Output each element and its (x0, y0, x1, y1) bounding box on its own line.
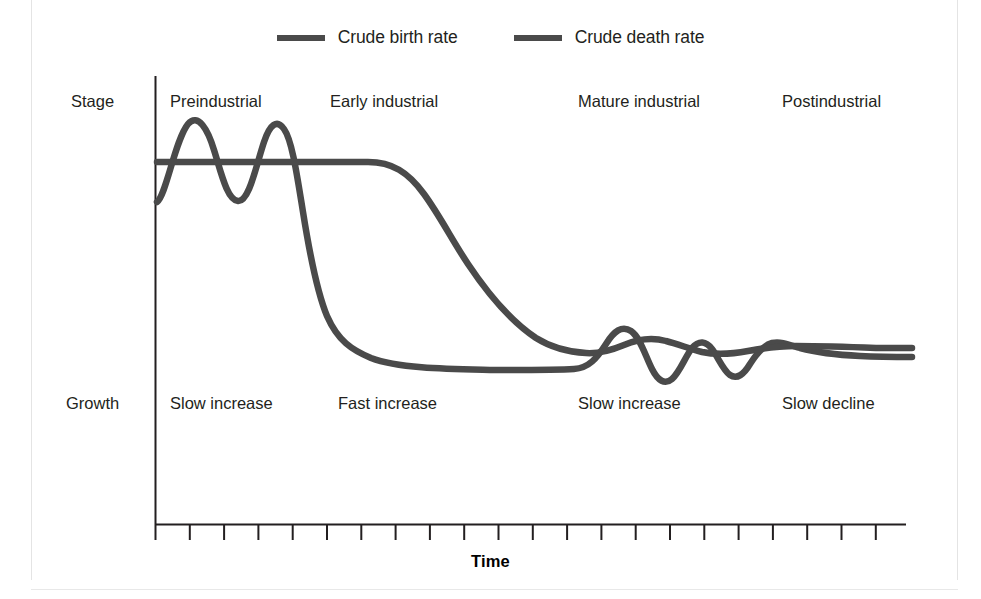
plot-area: Time (0, 0, 981, 599)
demographic-transition-figure: Crude birth rate Crude death rate Stage … (0, 0, 981, 599)
chart-svg (0, 0, 981, 599)
series-line-crude-birth-rate (157, 162, 912, 354)
x-axis-ticks (156, 524, 876, 540)
x-axis-label: Time (0, 552, 981, 571)
